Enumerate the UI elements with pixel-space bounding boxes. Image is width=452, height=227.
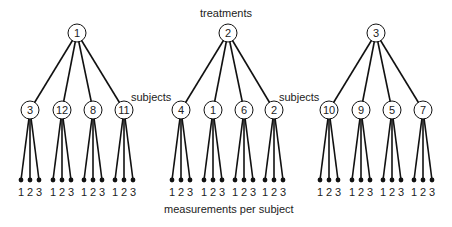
subject-measurement-edge [361,110,370,180]
measurement-number: 3 [280,186,286,198]
subject-measurement-edge [124,110,133,180]
measurement-dot [350,178,355,183]
measurement-number: 1 [349,186,355,198]
measurement-number: 1 [169,186,175,198]
subject-measurement-edge [320,110,329,180]
treatment-subject-edge [376,33,392,110]
measurement-number: 3 [187,186,193,198]
measurement-dot [359,178,364,183]
subjects-label-left: subjects [131,91,171,103]
measurement-number: 1 [81,186,87,198]
subject-number: 12 [56,104,68,116]
measurement-dot [381,178,386,183]
measurement-dot [412,178,417,183]
measurements-label: measurements per subject [164,203,294,215]
measurement-number: 3 [429,186,435,198]
measurement-number: 1 [112,186,118,198]
treatment-subject-edge [228,33,274,110]
measurement-dot [179,178,184,183]
measurement-number: 1 [380,186,386,198]
measurement-number: 3 [68,186,74,198]
measurement-dot [336,178,341,183]
measurement-number: 3 [398,186,404,198]
subject-number: 4 [178,104,184,116]
measurement-dot [60,178,65,183]
subject-measurement-edge [115,110,124,180]
subject-measurement-edge [204,110,213,180]
measurement-number: 1 [201,186,207,198]
measurement-number: 2 [326,186,332,198]
measurement-dot [281,178,286,183]
measurement-number: 2 [389,186,395,198]
subject-number: 9 [358,104,364,116]
measurement-dot [263,178,268,183]
measurement-dot [122,178,127,183]
measurement-number: 3 [250,186,256,198]
treatment-subject-edge [77,33,93,110]
subject-measurement-edge [414,110,423,180]
measurement-number: 2 [121,186,127,198]
measurement-dot [399,178,404,183]
treatments-label: treatments [200,7,252,19]
measurement-dot [242,178,247,183]
subject-number: 6 [241,104,247,116]
subject-measurement-edge [213,110,222,180]
measurement-number: 1 [50,186,56,198]
treatment-number: 2 [225,27,231,39]
subject-measurement-edge [352,110,361,180]
subjects-label-right: subjects [279,91,319,103]
subject-measurement-edge [62,110,71,180]
treatment-subject-edge [376,33,423,110]
subject-measurement-edge [181,110,190,180]
measurement-number: 2 [178,186,184,198]
measurement-number: 2 [59,186,65,198]
measurement-dot [390,178,395,183]
measurement-dot [91,178,96,183]
measurement-dot [318,178,323,183]
subject-measurement-edge [93,110,102,180]
subject-measurement-edge [274,110,283,180]
subject-measurement-edge [423,110,432,180]
subject-measurement-edge [329,110,338,180]
measurement-dot [188,178,193,183]
measurement-dot [211,178,216,183]
measurement-dot [51,178,56,183]
measurement-number: 1 [262,186,268,198]
subject-measurement-edge [265,110,274,180]
measurement-dot [430,178,435,183]
subject-measurement-edge [84,110,93,180]
treatment-number: 3 [373,27,379,39]
measurement-dot [272,178,277,183]
measurement-number: 1 [317,186,323,198]
subject-number: 1 [210,104,216,116]
measurement-number: 3 [219,186,225,198]
measurement-dot [19,178,24,183]
measurement-number: 2 [90,186,96,198]
subject-measurement-edge [21,110,30,180]
subject-number: 2 [271,104,277,116]
subject-number: 8 [90,104,96,116]
subject-measurement-edge [392,110,401,180]
subject-number: 11 [118,104,129,116]
measurement-number: 2 [241,186,247,198]
measurement-dot [170,178,175,183]
subject-number: 5 [389,104,395,116]
measurement-dot [368,178,373,183]
measurement-dot [100,178,105,183]
measurement-dot [69,178,74,183]
measurement-dot [327,178,332,183]
measurement-dot [202,178,207,183]
subject-measurement-edge [30,110,39,180]
measurement-dot [37,178,42,183]
measurement-dot [233,178,238,183]
subject-number: 7 [420,104,426,116]
measurement-dot [82,178,87,183]
treatment-subject-edge [77,33,124,110]
measurement-number: 1 [411,186,417,198]
measurement-number: 2 [358,186,364,198]
measurement-number: 1 [232,186,238,198]
subject-measurement-edge [244,110,253,180]
measurement-number: 3 [99,186,105,198]
treatment-number: 1 [74,27,80,39]
subject-measurement-edge [235,110,244,180]
